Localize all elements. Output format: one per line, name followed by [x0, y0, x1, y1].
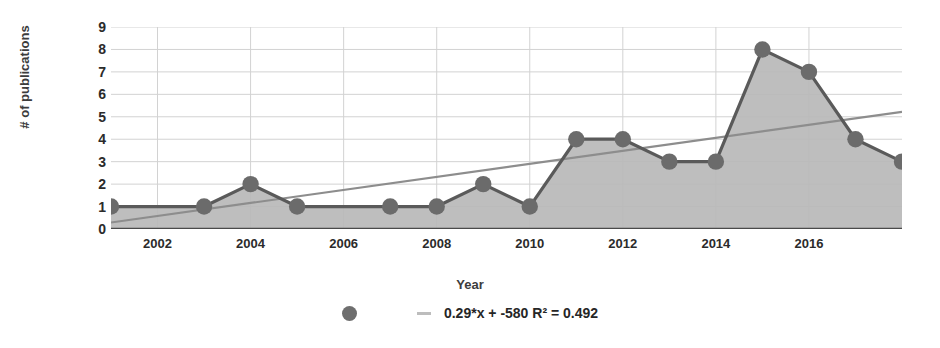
y-axis-tick-label: 8 [84, 42, 106, 56]
data-point-marker [196, 198, 212, 214]
y-axis-tick-label: 1 [84, 200, 106, 214]
x-axis-tick-label: 2014 [701, 236, 730, 251]
data-point-marker [242, 176, 258, 192]
legend-circle-marker-icon [342, 306, 357, 321]
x-axis-tick-label: 2008 [422, 236, 451, 251]
x-axis-title: Year [0, 277, 940, 292]
x-axis-tick-labels: 20022004200620082010201220142016 [0, 236, 940, 258]
y-axis-tick-label: 6 [84, 87, 106, 101]
plot-area [111, 27, 902, 229]
data-point-marker [382, 198, 398, 214]
y-axis-tick-label: 9 [84, 20, 106, 34]
data-point-marker [568, 131, 584, 147]
plot-svg [111, 27, 902, 229]
legend-label: 0.29*x + -580 R² = 0.492 [444, 305, 598, 321]
data-point-marker [847, 131, 863, 147]
x-axis-tick-label: 2004 [236, 236, 265, 251]
x-axis-tick-label: 2006 [329, 236, 358, 251]
y-axis-tick-label: 7 [84, 65, 106, 79]
y-axis-tick-label: 0 [84, 222, 106, 236]
data-point-marker [661, 153, 677, 169]
publications-per-year-chart: # of publications 0123456789 20022004200… [0, 0, 940, 348]
y-axis-tick-label: 3 [84, 155, 106, 169]
chart-legend: 0.29*x + -580 R² = 0.492 [0, 300, 940, 326]
y-axis-title: # of publications [17, 0, 47, 157]
y-axis-tick-label: 4 [84, 132, 106, 146]
x-axis-tick-label: 2002 [143, 236, 172, 251]
y-axis-tick-label: 5 [84, 110, 106, 124]
data-point-marker [708, 153, 724, 169]
y-axis-tick-labels: 0123456789 [62, 0, 106, 348]
x-axis-tick-label: 2010 [515, 236, 544, 251]
x-axis-tick-label: 2012 [608, 236, 637, 251]
data-point-marker [522, 198, 538, 214]
data-point-marker [801, 64, 817, 80]
data-point-marker [754, 41, 770, 57]
y-axis-tick-label: 2 [84, 177, 106, 191]
x-axis-tick-label: 2016 [794, 236, 823, 251]
legend-spacer [357, 313, 417, 314]
data-point-marker [615, 131, 631, 147]
legend-line-marker-icon [417, 312, 431, 315]
data-point-marker [429, 198, 445, 214]
data-point-marker [289, 198, 305, 214]
data-point-marker [475, 176, 491, 192]
